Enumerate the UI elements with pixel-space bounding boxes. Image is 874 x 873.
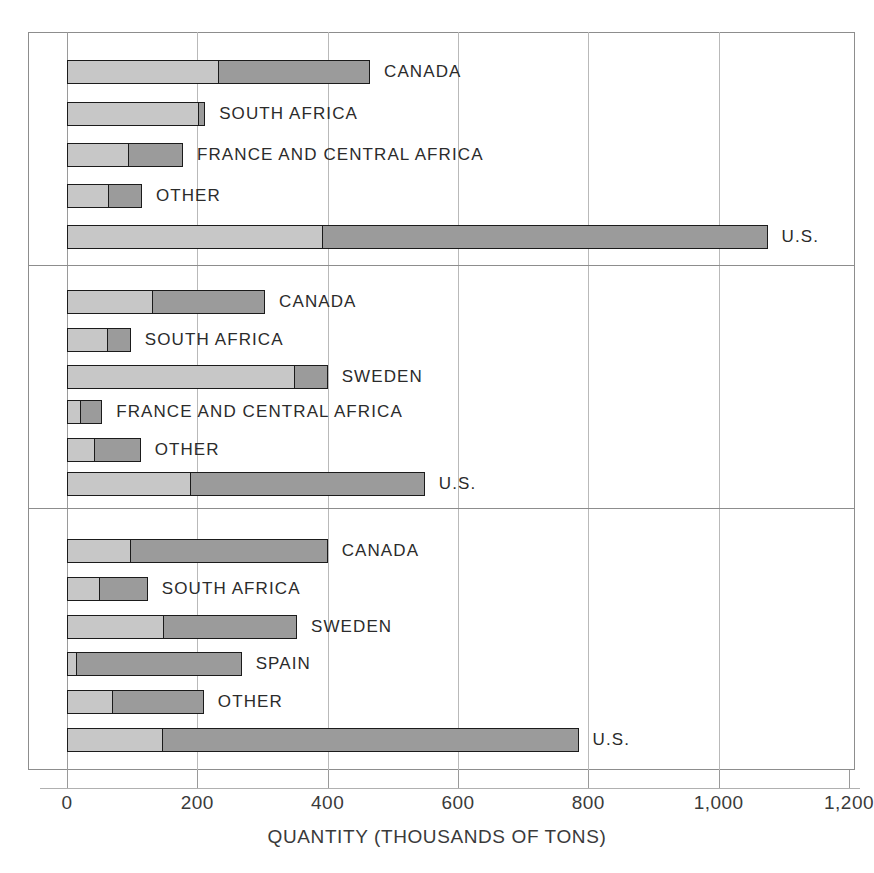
bar-segment-light bbox=[68, 291, 152, 313]
gridline bbox=[588, 32, 589, 770]
gridline bbox=[719, 32, 720, 770]
tick-mark bbox=[849, 770, 850, 788]
bar bbox=[67, 728, 579, 752]
bar-label: SWEDEN bbox=[311, 617, 392, 637]
bar-segment-dark bbox=[190, 473, 424, 495]
bar-segment-light bbox=[68, 578, 99, 600]
bar-label: FRANCE AND CENTRAL AFRICA bbox=[197, 145, 484, 165]
bar-segment-light bbox=[68, 329, 107, 351]
bar bbox=[67, 438, 141, 462]
bar-segment-light bbox=[68, 61, 218, 83]
bar-segment-dark bbox=[128, 144, 182, 166]
bar-label: SPAIN bbox=[256, 654, 311, 674]
x-tick-label: 1,200 bbox=[824, 792, 874, 814]
bar bbox=[67, 225, 768, 249]
bar-segment-dark bbox=[152, 291, 264, 313]
bar bbox=[67, 143, 183, 167]
bar-segment-light bbox=[68, 439, 94, 461]
bar-label: OTHER bbox=[156, 186, 221, 206]
x-tick-label: 600 bbox=[441, 792, 474, 814]
bar-segment-light bbox=[68, 366, 294, 388]
bar-segment-light bbox=[68, 729, 162, 751]
bar-segment-light bbox=[68, 540, 130, 562]
bar bbox=[67, 690, 204, 714]
bar-segment-light bbox=[68, 401, 80, 423]
bar bbox=[67, 577, 148, 601]
bar-segment-dark bbox=[107, 329, 130, 351]
bar-segment-dark bbox=[294, 366, 327, 388]
bar bbox=[67, 652, 242, 676]
bar-segment-light bbox=[68, 653, 76, 675]
bar-segment-dark bbox=[94, 439, 140, 461]
x-tick-label: 400 bbox=[311, 792, 344, 814]
tick-mark bbox=[67, 770, 68, 788]
x-tick-label: 1,000 bbox=[694, 792, 744, 814]
bar bbox=[67, 615, 297, 639]
bar-segment-dark bbox=[76, 653, 241, 675]
bar-label: OTHER bbox=[155, 440, 220, 460]
bar bbox=[67, 184, 142, 208]
bar-label: CANADA bbox=[279, 292, 356, 312]
bar-segment-light bbox=[68, 226, 322, 248]
chart-container: 02004006008001,0001,200 QUANTITY (THOUSA… bbox=[0, 0, 874, 873]
bar-segment-dark bbox=[163, 616, 296, 638]
bar bbox=[67, 400, 102, 424]
bar-segment-dark bbox=[162, 729, 578, 751]
x-axis-line bbox=[40, 788, 860, 789]
tick-mark bbox=[197, 770, 198, 788]
bar-segment-light bbox=[68, 185, 108, 207]
bar-segment-dark bbox=[108, 185, 141, 207]
bar-label: SOUTH AFRICA bbox=[145, 330, 284, 350]
bar bbox=[67, 60, 370, 84]
bar-segment-dark bbox=[198, 103, 204, 125]
bar-segment-dark bbox=[99, 578, 147, 600]
bar-segment-light bbox=[68, 691, 112, 713]
bar-segment-dark bbox=[80, 401, 101, 423]
x-tick-label: 200 bbox=[181, 792, 214, 814]
group-separator bbox=[28, 265, 855, 266]
bar bbox=[67, 328, 131, 352]
bar-segment-light bbox=[68, 616, 163, 638]
bar-segment-dark bbox=[322, 226, 766, 248]
bar-label: U.S. bbox=[782, 227, 819, 247]
x-tick-label: 800 bbox=[572, 792, 605, 814]
bar-label: SOUTH AFRICA bbox=[162, 579, 301, 599]
bar-label: FRANCE AND CENTRAL AFRICA bbox=[116, 402, 403, 422]
bar-label: CANADA bbox=[384, 62, 461, 82]
gridline bbox=[458, 32, 459, 770]
bar-label: U.S. bbox=[593, 730, 630, 750]
gridline bbox=[328, 32, 329, 770]
bar-segment-dark bbox=[130, 540, 327, 562]
bar-segment-dark bbox=[112, 691, 203, 713]
bar-segment-light bbox=[68, 473, 190, 495]
bar bbox=[67, 539, 328, 563]
bar bbox=[67, 102, 205, 126]
bar-label: CANADA bbox=[342, 541, 419, 561]
bar bbox=[67, 290, 265, 314]
bar-label: SWEDEN bbox=[342, 367, 423, 387]
bar-label: OTHER bbox=[218, 692, 283, 712]
tick-mark bbox=[719, 770, 720, 788]
bar-label: SOUTH AFRICA bbox=[219, 104, 358, 124]
bar bbox=[67, 472, 425, 496]
bar bbox=[67, 365, 328, 389]
x-axis-title: QUANTITY (THOUSANDS OF TONS) bbox=[0, 826, 874, 848]
bar-segment-light bbox=[68, 103, 198, 125]
x-tick-label: 0 bbox=[61, 792, 72, 814]
bar-label: U.S. bbox=[439, 474, 476, 494]
bar-segment-dark bbox=[218, 61, 369, 83]
tick-mark bbox=[328, 770, 329, 788]
tick-mark bbox=[458, 770, 459, 788]
bar-segment-light bbox=[68, 144, 128, 166]
group-separator bbox=[28, 508, 855, 509]
tick-mark bbox=[588, 770, 589, 788]
